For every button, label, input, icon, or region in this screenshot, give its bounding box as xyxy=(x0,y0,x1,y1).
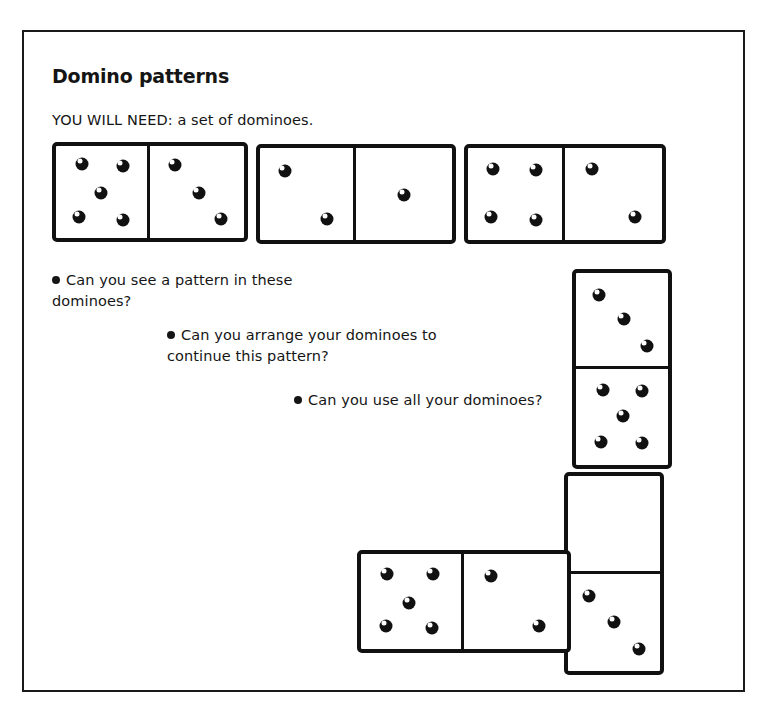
domino-pip xyxy=(168,158,181,171)
domino-half xyxy=(56,146,150,238)
question-text-line2: dominoes? xyxy=(52,291,312,312)
domino-pip xyxy=(380,620,393,633)
domino-half xyxy=(464,554,567,649)
bullet-icon xyxy=(167,331,175,339)
question-item: Can you use all your dominoes? xyxy=(294,390,584,411)
domino-pip xyxy=(398,188,411,201)
domino-pip xyxy=(76,158,89,171)
domino-pip xyxy=(192,187,205,200)
domino-pip xyxy=(640,339,653,352)
domino-pip xyxy=(583,590,596,603)
domino-tile xyxy=(357,550,571,653)
domino-pip xyxy=(403,596,416,609)
domino-tile xyxy=(464,144,666,244)
domino-pip xyxy=(380,568,393,581)
domino-pip xyxy=(95,186,108,199)
domino-pip xyxy=(608,615,621,628)
domino-pip xyxy=(586,163,599,176)
domino-pip xyxy=(617,313,630,326)
page-title: Domino patterns xyxy=(52,65,229,87)
domino-half xyxy=(150,146,244,238)
domino-pip xyxy=(532,619,545,632)
domino-pip xyxy=(484,570,497,583)
domino-half xyxy=(565,148,662,240)
domino-pip xyxy=(594,436,607,449)
domino-half xyxy=(361,554,464,649)
domino-pip xyxy=(278,164,291,177)
domino-tile xyxy=(572,269,672,469)
domino-pip xyxy=(215,213,228,226)
domino-pip xyxy=(485,210,498,223)
domino-pip xyxy=(529,164,542,177)
domino-pip xyxy=(596,383,609,396)
domino-pip xyxy=(617,410,630,423)
question-item: Can you see a pattern in thesedominoes? xyxy=(52,270,312,312)
domino-pip xyxy=(593,289,606,302)
domino-tile xyxy=(256,144,456,244)
domino-half xyxy=(260,148,356,240)
question-text-line1: Can you arrange your dominoes to xyxy=(181,327,437,343)
worksheet-frame: Domino patterns YOU WILL NEED: a set of … xyxy=(22,30,745,692)
domino-pip xyxy=(636,384,649,397)
domino-half xyxy=(568,574,660,672)
bullet-icon xyxy=(52,276,60,284)
domino-half xyxy=(568,476,660,574)
domino-pip xyxy=(321,212,334,225)
domino-pip xyxy=(73,211,86,224)
domino-pip xyxy=(487,162,500,175)
materials-line: YOU WILL NEED: a set of dominoes. xyxy=(52,112,313,128)
question-text-line1: Can you see a pattern in these xyxy=(66,272,293,288)
domino-pip xyxy=(426,567,439,580)
domino-tile xyxy=(52,142,248,242)
domino-half xyxy=(356,148,452,240)
question-item: Can you arrange your dominoes tocontinue… xyxy=(167,325,467,367)
domino-pip xyxy=(426,622,439,635)
domino-pip xyxy=(633,643,646,656)
bullet-icon xyxy=(294,396,302,404)
domino-pip xyxy=(635,437,648,450)
domino-pip xyxy=(116,213,129,226)
domino-tile xyxy=(564,472,664,675)
domino-half xyxy=(468,148,565,240)
domino-pip xyxy=(116,159,129,172)
domino-half xyxy=(576,369,668,465)
domino-pip xyxy=(530,213,543,226)
question-text-line1: Can you use all your dominoes? xyxy=(308,392,543,408)
question-text-line2: continue this pattern? xyxy=(167,346,467,367)
domino-pip xyxy=(629,210,642,223)
domino-half xyxy=(576,273,668,369)
